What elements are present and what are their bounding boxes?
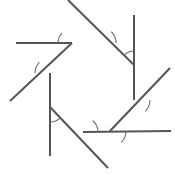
figure-background (0, 0, 175, 175)
geometry-figure (0, 0, 175, 175)
bottom-horizontal-side (83, 131, 171, 132)
figure-canvas (0, 0, 175, 175)
